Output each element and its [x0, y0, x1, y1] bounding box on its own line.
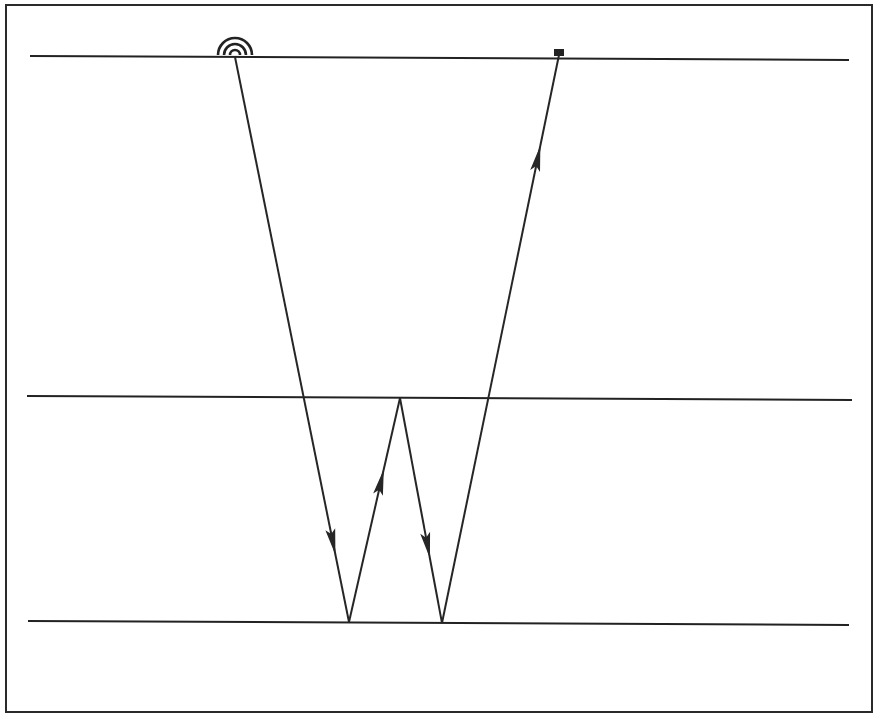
seismic-ray-diagram: [0, 0, 877, 719]
middle-horizon-line: [27, 396, 852, 400]
horizons: [27, 56, 852, 625]
arrow-up-icon: [530, 144, 545, 171]
receiver-icon: [554, 49, 564, 56]
ray-segment: [400, 398, 442, 623]
arrow-down-icon: [325, 528, 340, 555]
ray-segment: [349, 398, 400, 622]
arrow-down-icon: [420, 532, 435, 559]
surface-line: [30, 56, 849, 60]
arrow-up-icon: [373, 468, 389, 496]
deep-horizon-line: [28, 621, 849, 625]
ray-path: [235, 55, 559, 623]
ray-segment: [442, 55, 559, 623]
source-icon: [218, 38, 252, 55]
ray-arrows: [325, 144, 545, 559]
